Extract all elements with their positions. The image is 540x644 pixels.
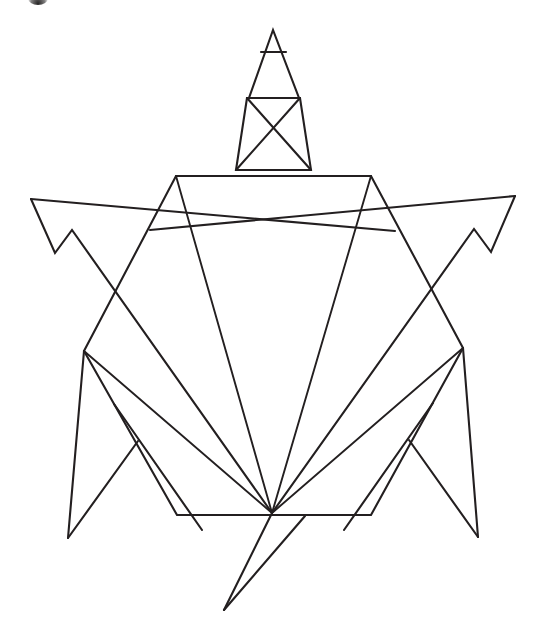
shell-crease-left-mid bbox=[84, 351, 272, 513]
left-leg-spine-crease bbox=[114, 404, 202, 530]
right-flipper-lower-edge bbox=[272, 196, 515, 513]
turtle-front-flippers-group bbox=[31, 196, 515, 513]
right-leg-inner-edge bbox=[409, 440, 478, 537]
turtle-neck-group bbox=[236, 98, 311, 170]
turtle-head-group bbox=[249, 30, 299, 98]
left-leg-outer-edge bbox=[68, 351, 84, 538]
turtle-tail-group bbox=[224, 513, 305, 610]
head-tip-triangle bbox=[249, 30, 299, 98]
right-leg-outer-edge bbox=[463, 348, 478, 537]
turtle-shell-group bbox=[84, 176, 463, 515]
left-flipper-lower-edge bbox=[31, 199, 272, 513]
shell-crease-right-top bbox=[272, 176, 371, 513]
shell-crease-left-top bbox=[176, 176, 272, 513]
shell-crease-right-mid bbox=[272, 348, 463, 513]
neck-trapezoid bbox=[236, 98, 311, 170]
origami-turtle-figure bbox=[0, 0, 540, 644]
left-leg-inner-edge bbox=[68, 441, 138, 538]
shell-hexagon-outline bbox=[84, 176, 463, 515]
right-leg-spine-crease bbox=[344, 403, 433, 530]
drawing-canvas bbox=[0, 0, 540, 644]
left-flipper-upper-edge bbox=[31, 199, 395, 231]
